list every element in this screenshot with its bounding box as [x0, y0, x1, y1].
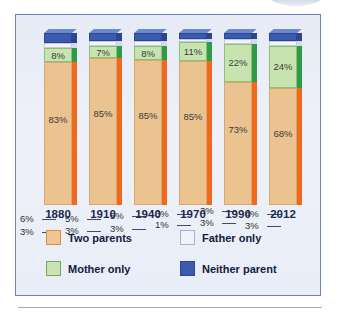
bar-side-face	[162, 46, 167, 60]
bar-front-face	[269, 33, 297, 41]
value-label-mother-only: 8%	[44, 50, 72, 61]
bar-segment-two-parents[interactable]: 83%	[44, 62, 72, 205]
bar-side-face	[162, 33, 167, 41]
legend-item-neither-parent[interactable]: Neither parent	[180, 261, 277, 276]
x-axis-label-2012: 2012	[260, 208, 306, 220]
value-label-mother-only: 7%	[89, 47, 117, 58]
bar-side-face	[162, 60, 167, 205]
value-label-two-parents: 85%	[89, 108, 117, 119]
bar-front-face	[44, 33, 72, 43]
bar-side-face	[252, 44, 257, 82]
bar-segment-neither-parent[interactable]	[89, 33, 117, 41]
bar-stack: 7% 85%	[89, 33, 117, 205]
bar-segment-neither-parent[interactable]	[134, 33, 162, 41]
x-axis-label-1970: 1970	[170, 208, 216, 220]
bar-side-face	[117, 33, 122, 41]
bar-segment-mother-only[interactable]: 11%	[179, 42, 207, 61]
bar-front-face	[224, 82, 252, 205]
value-label-mother-only: 8%	[134, 48, 162, 59]
neither-parent-swatch	[180, 261, 195, 276]
bar-side-face	[207, 42, 212, 61]
bar-side-face	[72, 62, 77, 205]
value-label-two-parents: 73%	[224, 124, 252, 135]
bar-segment-two-parents[interactable]: 73%	[224, 82, 252, 205]
bar-side-face	[252, 82, 257, 205]
leader-line-father-only	[222, 223, 236, 224]
stacked-bar-plot-area: 8% 83% 6% 3%	[16, 15, 322, 205]
mother-only-swatch	[46, 261, 61, 276]
callout-father-only: 1%	[155, 219, 169, 230]
bar-side-face	[117, 46, 122, 58]
bar-front-face	[134, 33, 162, 41]
value-label-mother-only: 22%	[224, 57, 252, 68]
value-label-two-parents: 68%	[269, 128, 297, 139]
bar-side-face	[72, 48, 77, 62]
bar-front-face	[134, 60, 162, 205]
value-label-mother-only: 11%	[179, 46, 207, 57]
bar-stack: 8% 83%	[44, 33, 72, 205]
legend-label: Father only	[202, 232, 261, 244]
x-axis-label-1940: 1940	[125, 208, 171, 220]
leader-line-father-only	[267, 226, 281, 227]
bar-stack: 24% 68%	[269, 33, 297, 205]
leader-line-father-only	[177, 225, 191, 226]
x-axis-label-1880: 1880	[35, 208, 81, 220]
legend-item-two-parents[interactable]: Two parents	[46, 230, 132, 245]
bar-segment-mother-only[interactable]: 7%	[89, 46, 117, 58]
page-number-badge	[268, 0, 324, 6]
bar-front-face	[44, 62, 72, 205]
bar-front-face	[89, 58, 117, 205]
bar-stack: 22% 73%	[224, 33, 252, 205]
bar-side-face	[297, 33, 302, 41]
bar-side-face	[72, 33, 77, 43]
value-label-two-parents: 85%	[134, 110, 162, 121]
bar-segment-two-parents[interactable]: 85%	[89, 58, 117, 205]
bar-stack: 11% 85%	[179, 33, 207, 205]
callout-father-only: 3%	[20, 226, 34, 237]
legend-item-mother-only[interactable]: Mother only	[46, 261, 130, 276]
value-label-mother-only: 24%	[269, 61, 297, 72]
callout-neither-parent: 6%	[20, 213, 34, 224]
bar-side-face	[297, 46, 302, 88]
x-axis-label-1910: 1910	[80, 208, 126, 220]
bar-front-face	[179, 61, 207, 205]
legend-item-father-only[interactable]: Father only	[180, 230, 261, 245]
chart-panel: 8% 83% 6% 3%	[15, 14, 321, 296]
legend-label: Mother only	[68, 263, 130, 275]
chart-legend: Two parents Father only Mother only Neit…	[46, 230, 308, 288]
legend-label: Neither parent	[202, 263, 277, 275]
bar-side-face	[297, 88, 302, 205]
x-axis-label-1990: 1990	[215, 208, 261, 220]
bar-stack: 8% 85%	[134, 33, 162, 205]
bar-segment-neither-parent[interactable]	[269, 33, 297, 41]
value-label-two-parents: 83%	[44, 114, 72, 125]
bar-segment-mother-only[interactable]: 22%	[224, 44, 252, 82]
two-parents-swatch	[46, 230, 61, 245]
bar-segment-mother-only[interactable]: 8%	[44, 48, 72, 62]
bar-segment-mother-only[interactable]: 8%	[134, 46, 162, 60]
bar-front-face	[269, 88, 297, 205]
bar-segment-neither-parent[interactable]	[44, 33, 72, 43]
value-label-two-parents: 85%	[179, 111, 207, 122]
bar-segment-mother-only[interactable]: 24%	[269, 46, 297, 88]
bar-side-face	[207, 61, 212, 205]
bar-segment-two-parents[interactable]: 68%	[269, 88, 297, 205]
bar-side-face	[117, 58, 122, 205]
bar-front-face	[89, 33, 117, 41]
bar-segment-two-parents[interactable]: 85%	[134, 60, 162, 205]
page-divider-rule	[18, 307, 322, 308]
father-only-swatch	[180, 230, 195, 245]
legend-label: Two parents	[68, 232, 132, 244]
bar-segment-two-parents[interactable]: 85%	[179, 61, 207, 205]
